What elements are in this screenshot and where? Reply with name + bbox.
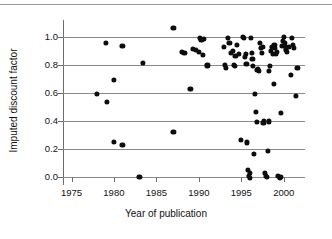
data-point	[244, 61, 249, 66]
x-tick-mark	[72, 177, 73, 182]
data-point	[271, 82, 276, 87]
data-point	[259, 50, 264, 55]
y-axis-line	[63, 20, 64, 185]
y-tick-label: 0.2	[45, 144, 58, 154]
y-tick-mark	[58, 177, 63, 178]
y-tick-label: 0.8	[45, 60, 58, 70]
page-top-rule	[0, 4, 332, 5]
data-point	[201, 52, 206, 57]
y-tick-label: 0.6	[45, 88, 58, 98]
x-tick-label: 1975	[61, 188, 82, 198]
data-point	[265, 148, 270, 153]
data-point	[290, 35, 295, 40]
data-point	[267, 68, 272, 73]
data-point	[235, 42, 240, 47]
data-point	[105, 99, 110, 104]
data-point	[257, 68, 262, 73]
plot-area	[63, 20, 305, 185]
x-tick-label: 1985	[146, 188, 167, 198]
data-point	[285, 50, 290, 55]
data-point	[225, 35, 230, 40]
data-point	[232, 64, 237, 69]
data-point	[266, 119, 271, 124]
data-point	[171, 129, 176, 134]
data-point	[252, 152, 257, 157]
data-point	[236, 51, 241, 56]
data-point	[279, 110, 284, 115]
data-point	[254, 120, 259, 125]
data-point	[248, 35, 253, 40]
data-point	[94, 92, 99, 97]
data-point	[274, 50, 279, 55]
y-axis-title: Imputed discount factor	[8, 26, 19, 176]
x-tick-label: 2000	[273, 188, 294, 198]
data-point	[247, 175, 252, 180]
data-point	[260, 45, 265, 50]
data-point	[250, 56, 255, 61]
x-tick-label: 1995	[231, 188, 252, 198]
y-tick-mark	[58, 149, 63, 150]
y-tick-mark	[58, 93, 63, 94]
y-tick-label: 0.0	[45, 172, 58, 182]
data-point	[111, 139, 116, 144]
x-axis-title: Year of publication	[0, 208, 332, 219]
data-point	[245, 140, 250, 145]
data-point	[288, 72, 293, 77]
x-tick-mark	[114, 177, 115, 182]
y-tick-label: 1.0	[45, 32, 58, 42]
data-point	[227, 41, 232, 46]
x-tick-label: 1980	[103, 188, 124, 198]
gridline-y	[63, 37, 305, 38]
data-point	[239, 137, 244, 142]
y-tick-mark	[58, 65, 63, 66]
data-point	[295, 66, 300, 71]
data-point	[111, 78, 116, 83]
x-tick-mark	[241, 177, 242, 182]
data-point	[137, 175, 142, 180]
y-tick-mark	[58, 37, 63, 38]
x-tick-mark	[199, 177, 200, 182]
data-point	[103, 41, 108, 46]
data-point	[205, 63, 210, 68]
data-point	[222, 45, 227, 50]
scatter-plot-figure: 0.00.20.40.60.81.0 197519801985199019952…	[0, 0, 332, 239]
data-point	[278, 174, 283, 179]
data-point	[249, 50, 254, 55]
x-tick-mark	[156, 177, 157, 182]
data-point	[182, 50, 187, 55]
data-point	[268, 64, 273, 69]
data-point	[171, 25, 176, 30]
y-tick-mark	[58, 121, 63, 122]
data-point	[252, 92, 257, 97]
data-point	[120, 43, 125, 48]
data-point	[188, 87, 193, 92]
data-point	[223, 65, 228, 70]
data-point	[243, 52, 248, 57]
data-point	[241, 35, 246, 40]
data-point	[253, 109, 258, 114]
x-tick-mark	[284, 177, 285, 182]
data-point	[293, 93, 298, 98]
data-point	[264, 174, 269, 179]
x-axis-tick-labels: 197519801985199019952000	[63, 188, 313, 204]
data-point	[291, 45, 296, 50]
data-point	[281, 34, 286, 39]
y-tick-label: 0.4	[45, 116, 58, 126]
data-point	[120, 143, 125, 148]
x-tick-label: 1990	[188, 188, 209, 198]
data-point	[201, 36, 206, 41]
